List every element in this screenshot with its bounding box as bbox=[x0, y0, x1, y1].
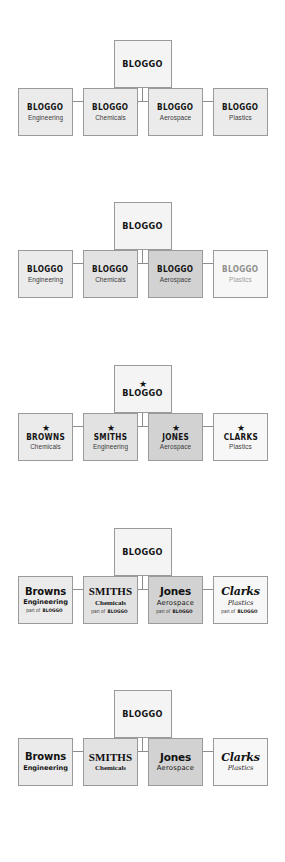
parent-wordmark: BLOGGO bbox=[123, 547, 164, 557]
child-descriptor: Plastics bbox=[228, 764, 254, 772]
child-wordmark: Browns bbox=[25, 587, 66, 598]
child-descriptor: Plastics bbox=[229, 276, 252, 283]
parent-row: BLOGGO bbox=[0, 202, 285, 250]
child-wordmark: Jones bbox=[160, 586, 191, 597]
chart-endorsed-partof: BLOGGO Browns Engineering part of BLOGGO… bbox=[0, 528, 285, 624]
child-descriptor: Aerospace bbox=[160, 443, 191, 450]
child-box-clarks[interactable]: ★ CLARKS Plastics bbox=[213, 413, 268, 461]
child-wordmark: BLOGGO bbox=[92, 103, 128, 112]
parent-wordmark: BLOGGO bbox=[123, 221, 164, 231]
child-box-chemicals[interactable]: BLOGGO Chemicals bbox=[83, 88, 138, 136]
child-descriptor: Chemicals bbox=[95, 599, 126, 607]
child-descriptor: Plastics bbox=[229, 114, 252, 121]
parent-wordmark: BLOGGO bbox=[123, 709, 164, 719]
parent-row: BLOGGO bbox=[0, 690, 285, 738]
parent-row: BLOGGO bbox=[0, 40, 285, 88]
child-box-aerospace[interactable]: BLOGGO Aerospace bbox=[148, 250, 203, 298]
child-row: BLOGGO Engineering BLOGGO Chemicals BLOG… bbox=[0, 250, 285, 298]
child-descriptor: Chemicals bbox=[30, 443, 61, 450]
child-wordmark: Clarks bbox=[221, 586, 259, 598]
child-descriptor: Chemicals bbox=[95, 114, 126, 121]
child-descriptor: Plastics bbox=[228, 599, 254, 607]
child-box-engineering[interactable]: BLOGGO Engineering bbox=[18, 250, 73, 298]
child-box-clarks[interactable]: Clarks Plastics part of BLOGGO bbox=[213, 576, 268, 624]
child-descriptor: Engineering bbox=[93, 443, 128, 450]
child-box-smiths[interactable]: ★ SMITHS Engineering bbox=[83, 413, 138, 461]
child-wordmark: BLOGGO bbox=[92, 265, 128, 274]
child-box-jones[interactable]: Jones Aerospace bbox=[148, 738, 203, 786]
child-box-clarks[interactable]: Clarks Plastics bbox=[213, 738, 268, 786]
parent-box[interactable]: BLOGGO bbox=[114, 528, 172, 576]
parent-box[interactable]: BLOGGO bbox=[114, 40, 172, 88]
child-box-plastics[interactable]: BLOGGO Plastics bbox=[213, 88, 268, 136]
child-wordmark: BROWNS bbox=[26, 433, 65, 442]
parent-box[interactable]: ★ BLOGGO bbox=[114, 365, 172, 413]
parent-box[interactable]: BLOGGO bbox=[114, 202, 172, 250]
endorsement-label: part of BLOGGO bbox=[156, 609, 194, 614]
child-wordmark: BLOGGO bbox=[222, 265, 258, 274]
child-descriptor: Engineering bbox=[28, 114, 63, 121]
child-wordmark: SMITHS bbox=[89, 586, 132, 598]
child-box-browns[interactable]: Browns Engineering part of BLOGGO bbox=[18, 576, 73, 624]
child-wordmark: BLOGGO bbox=[157, 265, 193, 274]
child-box-jones[interactable]: Jones Aerospace part of BLOGGO bbox=[148, 576, 203, 624]
child-wordmark: BLOGGO bbox=[27, 265, 63, 274]
child-descriptor: Chemicals bbox=[95, 276, 126, 283]
child-box-smiths[interactable]: SMITHS Chemicals part of BLOGGO bbox=[83, 576, 138, 624]
parent-wordmark: BLOGGO bbox=[123, 59, 164, 69]
child-box-engineering[interactable]: BLOGGO Engineering bbox=[18, 88, 73, 136]
parent-row: BLOGGO bbox=[0, 528, 285, 576]
child-box-chemicals[interactable]: BLOGGO Chemicals bbox=[83, 250, 138, 298]
child-row: BLOGGO Engineering BLOGGO Chemicals BLOG… bbox=[0, 88, 285, 136]
child-box-plastics[interactable]: BLOGGO Plastics bbox=[213, 250, 268, 298]
child-row: ★ BROWNS Chemicals ★ SMITHS Engineering … bbox=[0, 413, 285, 461]
endorsement-label: part of BLOGGO bbox=[221, 609, 259, 614]
child-box-browns[interactable]: Browns Engineering bbox=[18, 738, 73, 786]
child-descriptor: Aerospace bbox=[157, 764, 194, 772]
child-wordmark: BLOGGO bbox=[27, 103, 63, 112]
child-wordmark: CLARKS bbox=[223, 433, 257, 442]
child-wordmark: SMITHS bbox=[89, 752, 132, 764]
child-row: Browns Engineering SMITHS Chemicals Jone… bbox=[0, 738, 285, 786]
brand-architecture-diagram-sheet: BLOGGO BLOGGO Engineering BLOGGO Chemica… bbox=[0, 0, 285, 862]
parent-box[interactable]: BLOGGO bbox=[114, 690, 172, 738]
child-descriptor: Plastics bbox=[229, 443, 252, 450]
child-wordmark: Clarks bbox=[221, 752, 259, 764]
child-descriptor: Engineering bbox=[23, 598, 68, 606]
child-wordmark: JONES bbox=[162, 433, 189, 442]
endorsement-label: part of BLOGGO bbox=[91, 609, 129, 614]
child-descriptor: Chemicals bbox=[95, 764, 126, 772]
child-row: Browns Engineering part of BLOGGO SMITHS… bbox=[0, 576, 285, 624]
chart-house-of-brands: BLOGGO Browns Engineering SMITHS Chemica… bbox=[0, 690, 285, 786]
chart-monolithic-graduated: BLOGGO BLOGGO Engineering BLOGGO Chemica… bbox=[0, 202, 285, 298]
chart-monolithic-identity: BLOGGO BLOGGO Engineering BLOGGO Chemica… bbox=[0, 40, 285, 136]
parent-wordmark: BLOGGO bbox=[123, 388, 164, 398]
child-descriptor: Aerospace bbox=[160, 114, 191, 121]
child-descriptor: Aerospace bbox=[157, 599, 194, 607]
child-box-aerospace[interactable]: BLOGGO Aerospace bbox=[148, 88, 203, 136]
child-wordmark: Jones bbox=[160, 752, 191, 763]
child-descriptor: Engineering bbox=[28, 276, 63, 283]
child-wordmark: BLOGGO bbox=[157, 103, 193, 112]
child-wordmark: BLOGGO bbox=[222, 103, 258, 112]
child-box-smiths[interactable]: SMITHS Chemicals bbox=[83, 738, 138, 786]
chart-endorsed-star: ★ BLOGGO ★ BROWNS Chemicals ★ SMITHS Eng… bbox=[0, 365, 285, 461]
child-wordmark: Browns bbox=[25, 752, 66, 763]
child-descriptor: Engineering bbox=[23, 764, 68, 772]
child-box-jones[interactable]: ★ JONES Aerospace bbox=[148, 413, 203, 461]
endorsement-label: part of BLOGGO bbox=[26, 608, 64, 613]
child-wordmark: SMITHS bbox=[94, 433, 128, 442]
parent-row: ★ BLOGGO bbox=[0, 365, 285, 413]
child-box-browns[interactable]: ★ BROWNS Chemicals bbox=[18, 413, 73, 461]
child-descriptor: Aerospace bbox=[160, 276, 191, 283]
